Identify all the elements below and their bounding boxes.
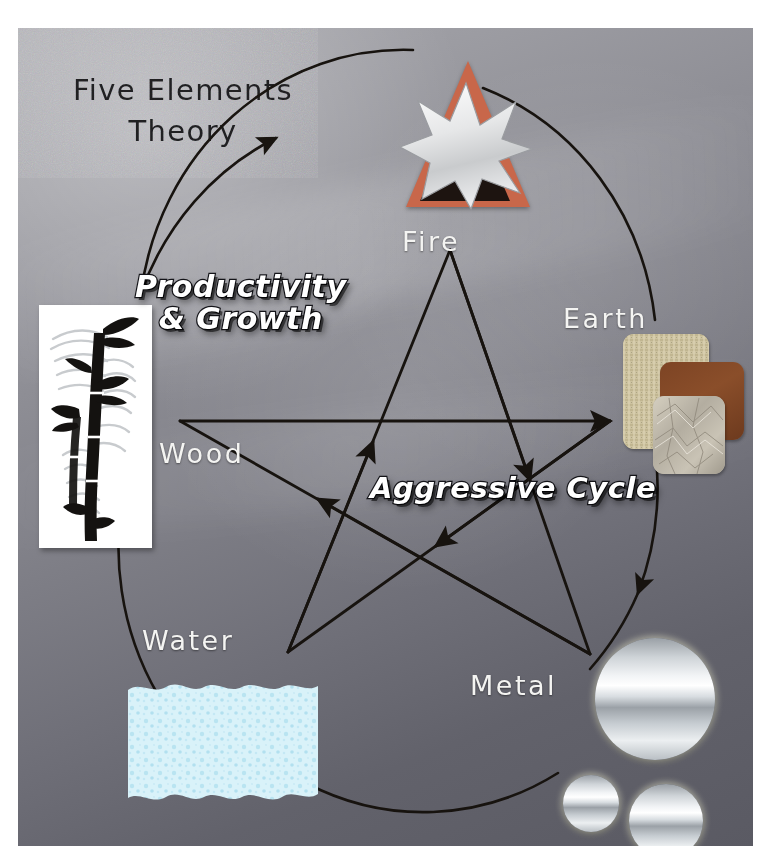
arc-wood-to-fire — [141, 50, 413, 293]
earth-stone-square-icon — [653, 396, 725, 474]
water-icon — [128, 678, 318, 806]
wood-label: Wood — [159, 438, 244, 469]
arc-metal-to-water — [306, 773, 558, 812]
metal-circle-medium-icon — [629, 784, 703, 846]
productivity-line1: Productivity — [135, 269, 346, 304]
slide-page: Five Elements Theory — [0, 0, 771, 861]
aggressive-cycle-caption: Aggressive Cycle — [370, 473, 656, 504]
bamboo-painting — [39, 305, 152, 548]
arrow-metal-to-wood — [318, 499, 590, 654]
productivity-line2: & Growth — [135, 303, 346, 335]
metal-icon — [563, 638, 743, 846]
slide-canvas: Five Elements Theory — [18, 28, 753, 846]
metal-label: Metal — [470, 670, 557, 701]
earth-icon — [623, 334, 753, 474]
metal-circle-small-icon — [563, 775, 619, 832]
fire-icon — [396, 53, 536, 218]
fire-label: Fire — [402, 226, 460, 257]
productivity-growth-caption: Productivity & Growth — [135, 271, 346, 336]
wood-icon — [39, 305, 152, 548]
water-block-icon — [128, 678, 318, 806]
water-label: Water — [142, 625, 234, 656]
metal-circle-large-icon — [595, 638, 715, 760]
earth-label: Earth — [563, 303, 648, 334]
fire-star-icon — [398, 81, 534, 211]
arrow-fire-to-metal — [450, 250, 530, 480]
